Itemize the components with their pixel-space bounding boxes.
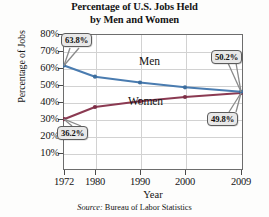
y-axis-tick-label: 30%	[0, 113, 59, 124]
callout-men-1972: 63.8%	[61, 33, 92, 47]
y-axis-tick-label: 20%	[0, 130, 59, 141]
y-axis-tick-label: 40%	[0, 96, 59, 107]
data-point-men	[93, 75, 97, 79]
x-axis-tick-label: 1980	[73, 176, 117, 187]
x-axis-tick	[241, 170, 242, 175]
y-axis-tick-label: 50%	[0, 79, 59, 90]
x-axis-tick	[185, 170, 186, 175]
callout-women-1972: 36.2%	[57, 126, 88, 140]
x-axis-tick-label: 2009	[219, 176, 263, 187]
x-axis-title: Year	[63, 189, 243, 200]
data-point-women	[183, 95, 187, 99]
source-note: Source: Bureau of Labor Statistics	[0, 203, 269, 212]
y-axis-tick-label: 10%	[0, 147, 59, 158]
series-line-men	[64, 66, 241, 92]
y-axis-tick-label: 70%	[0, 45, 59, 56]
x-axis-tick	[95, 170, 96, 175]
chart-title: Percentage of U.S. Jobs Held by Men and …	[0, 1, 269, 26]
callout-men-2009: 50.2%	[211, 50, 242, 64]
chart-title-line-2: by Men and Women	[0, 14, 269, 27]
x-axis-tick-label: 2000	[163, 176, 207, 187]
x-axis-tick	[140, 170, 141, 175]
y-axis-tick-label: 60%	[0, 62, 59, 73]
chart-figure: Percentage of U.S. Jobs Held by Men and …	[0, 0, 269, 217]
data-point-women	[93, 105, 97, 109]
series-label-women: Women	[128, 95, 163, 107]
series-label-men: Men	[139, 55, 160, 67]
callout-women-2009: 49.8%	[207, 112, 238, 126]
source-prefix: Source:	[77, 203, 103, 212]
x-axis-tick	[64, 170, 65, 175]
data-point-men	[138, 80, 142, 84]
data-point-men	[239, 90, 243, 94]
x-axis-tick-label: 1990	[118, 176, 162, 187]
chart-title-line-1: Percentage of U.S. Jobs Held	[71, 1, 198, 12]
y-axis-tick-label: 80%	[0, 28, 59, 39]
data-point-men	[183, 85, 187, 89]
source-text: Bureau of Labor Statistics	[105, 203, 192, 212]
